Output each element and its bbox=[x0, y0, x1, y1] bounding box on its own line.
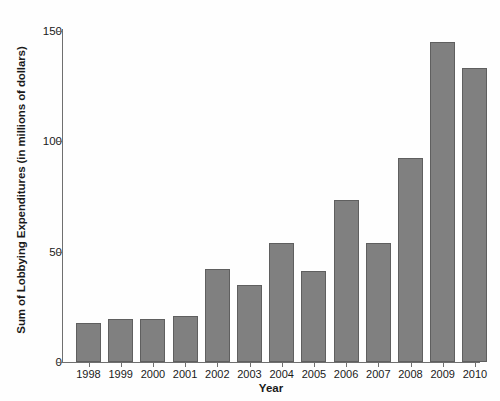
x-tick-mark bbox=[121, 363, 122, 367]
x-tick-mark bbox=[185, 363, 186, 367]
bar-2003 bbox=[237, 285, 262, 362]
bar-2001 bbox=[173, 316, 198, 362]
x-tick-mark bbox=[411, 363, 412, 367]
x-tick-mark bbox=[282, 363, 283, 367]
bar-2006 bbox=[334, 200, 359, 362]
x-tick-label-2010: 2010 bbox=[455, 368, 495, 381]
bar-2000 bbox=[140, 319, 165, 362]
bar-2009 bbox=[430, 42, 455, 362]
x-tick-mark bbox=[89, 363, 90, 367]
bar-2010 bbox=[462, 68, 487, 362]
x-tick-mark bbox=[250, 363, 251, 367]
x-tick-mark bbox=[346, 363, 347, 367]
bar-1998 bbox=[76, 323, 101, 362]
x-tick-mark bbox=[378, 363, 379, 367]
x-tick-mark bbox=[314, 363, 315, 367]
bar-2005 bbox=[301, 271, 326, 362]
bar-2004 bbox=[269, 243, 294, 362]
x-axis-title: Year bbox=[62, 382, 480, 394]
bar-chart: Sum of Lobbying Expenditures (in million… bbox=[0, 0, 500, 401]
bars-layer bbox=[0, 0, 500, 401]
bar-2007 bbox=[366, 243, 391, 362]
x-tick-mark bbox=[217, 363, 218, 367]
bar-2008 bbox=[398, 158, 423, 362]
x-tick-mark bbox=[443, 363, 444, 367]
bar-2002 bbox=[205, 269, 230, 362]
x-tick-mark bbox=[153, 363, 154, 367]
bar-1999 bbox=[108, 319, 133, 362]
x-tick-mark bbox=[475, 363, 476, 367]
